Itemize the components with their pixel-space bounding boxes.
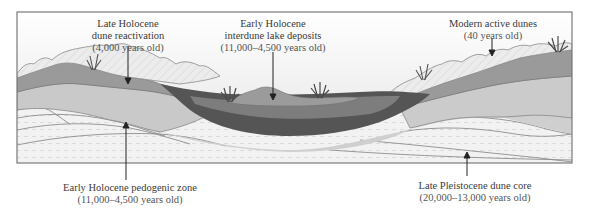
label-modern-active-dunes: Modern active dunes (40 years old) <box>437 18 549 42</box>
label-title-line1: Early Holocene <box>208 18 338 30</box>
label-age: (4,000 years old) <box>68 42 188 54</box>
label-title-line1: Early Holocene pedogenic zone <box>55 182 205 194</box>
label-late-holocene-reactivation: Late Holocene dune reactivation (4,000 y… <box>68 18 188 54</box>
label-title-line1: Late Holocene <box>68 18 188 30</box>
label-title-line1: Modern active dunes <box>437 18 549 30</box>
label-age: (20,000–13,000 years old) <box>405 192 545 204</box>
label-late-pleistocene-core: Late Pleistocene dune core (20,000–13,00… <box>405 180 545 204</box>
label-age: (40 years old) <box>437 30 549 42</box>
label-early-holocene-pedogenic: Early Holocene pedogenic zone (11,000–4,… <box>55 182 205 206</box>
label-title-line2: interdune lake deposits <box>208 30 338 42</box>
label-title-line1: Late Pleistocene dune core <box>405 180 545 192</box>
label-title-line2: dune reactivation <box>68 30 188 42</box>
label-early-holocene-lake: Early Holocene interdune lake deposits (… <box>208 18 338 54</box>
label-age: (11,000–4,500 years old) <box>55 194 205 206</box>
label-age: (11,000–4,500 years old) <box>208 42 338 54</box>
